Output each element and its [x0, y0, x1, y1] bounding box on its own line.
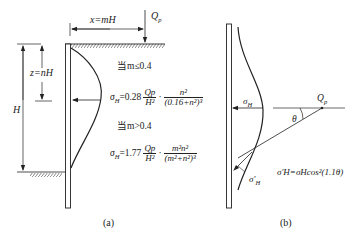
angle-theta-label: θ — [292, 115, 297, 125]
pile-b — [227, 24, 232, 208]
sigma-h-label: σH — [243, 97, 252, 108]
pile-a — [66, 44, 71, 208]
formula1-coef: =0.28 — [119, 92, 141, 102]
panel-b — [227, 24, 346, 208]
caption-b: (b) — [280, 217, 292, 228]
load-point — [321, 107, 324, 110]
stress-curve-b — [238, 27, 263, 190]
dimension-h-label: H — [13, 105, 20, 115]
sigma-subscript: H — [247, 101, 252, 108]
diagram-canvas — [0, 0, 361, 242]
load-subscript: p — [158, 16, 161, 23]
formula2-coef: =1.77 — [119, 148, 141, 158]
formula2-frac1: QpH² — [143, 144, 156, 163]
dimension-x-label: x=mH — [90, 15, 116, 25]
load-qp-label: Qp — [151, 11, 161, 24]
incline-line — [238, 108, 322, 158]
formula1-frac2-den: (0.16+n²)³ — [164, 98, 204, 107]
formula2-dot: · — [158, 148, 161, 158]
panel-a — [17, 10, 165, 208]
formula1-frac2: n²(0.16+n²)³ — [164, 88, 204, 107]
formula2-frac2: m²n²(m²+n²)³ — [164, 144, 197, 163]
formula2-frac1-den: H² — [143, 154, 156, 163]
case1-condition: 当m≤0.4 — [117, 62, 151, 72]
stress-curve-a — [71, 48, 101, 168]
formula1-frac1: QpH² — [143, 88, 156, 107]
load-subscript-b: p — [324, 98, 327, 105]
ground-hatch-top — [71, 44, 165, 48]
formula2-frac2-den: (m²+n²)³ — [164, 154, 197, 163]
formula1: σH=0.28QpH²·n²(0.16+n²)³ — [110, 88, 205, 107]
caption-a: (a) — [103, 217, 114, 228]
case2-condition: 当m>0.4 — [117, 122, 152, 132]
load-qp-label-b: Qp — [317, 94, 327, 105]
sigma-prime-subscript: H — [255, 179, 260, 186]
sigma-prime-label: σ'H — [249, 175, 260, 186]
formula2: σH=1.77QpH²·m²n²(m²+n²)³ — [110, 144, 199, 163]
ground-hatch-bottom — [30, 173, 62, 177]
reduction-formula: σ'H=σHcos²(1.1θ) — [277, 168, 343, 177]
dimension-z-label: z=nH — [30, 68, 53, 78]
angle-arc — [300, 108, 303, 119]
load-symbol-b: Q — [317, 93, 324, 103]
formula1-dot: · — [158, 92, 161, 102]
formula1-frac1-den: H² — [143, 98, 156, 107]
